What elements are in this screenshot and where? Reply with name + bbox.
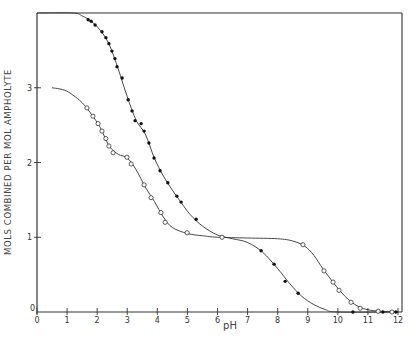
- open-circle-marker: [100, 129, 104, 133]
- open-circle-marker: [331, 280, 335, 284]
- filled-circle-marker: [179, 200, 182, 203]
- x-tick-label: 10: [333, 316, 343, 325]
- filled-circle-marker: [130, 109, 133, 112]
- filled-circle-marker: [158, 169, 161, 172]
- x-tick-label: 9: [305, 316, 310, 325]
- filled-circle-marker: [104, 36, 107, 39]
- filled-circle-marker: [259, 249, 262, 252]
- filled-circle-marker: [139, 122, 142, 125]
- open-circle-marker: [390, 310, 394, 314]
- y-tick-label: 1: [27, 233, 32, 242]
- filled-circle-marker: [115, 65, 118, 68]
- open-circle-marker: [142, 183, 146, 187]
- open-circle-marker: [163, 220, 167, 224]
- open-circle-marker: [301, 243, 305, 247]
- filled-circle-marker: [113, 57, 116, 60]
- filled-circle-marker: [107, 42, 110, 45]
- open-circle-marker: [96, 122, 100, 126]
- filled-series-curve: [37, 13, 398, 312]
- open-circle-marker: [185, 231, 189, 235]
- x-tick-label: 5: [185, 316, 190, 325]
- y-tick-label: 3: [27, 84, 32, 93]
- filled-circle-marker: [152, 156, 155, 159]
- x-tick-label: 6: [215, 316, 220, 325]
- filled-circle-marker: [86, 18, 89, 21]
- x-tick-label: 2: [95, 316, 100, 325]
- x-tick-label: 1: [65, 316, 70, 325]
- filled-circle-marker: [120, 76, 123, 79]
- filled-circle-marker: [351, 310, 354, 313]
- open-circle-marker: [159, 210, 163, 214]
- titration-chart: 01234567891011121230 MOLS COMBINED PER M…: [0, 0, 414, 344]
- filled-circle-marker: [394, 310, 397, 313]
- y-axis-title: MOLS COMBINED PER MOL AMPHOLYTE: [3, 69, 13, 255]
- open-circle-marker: [337, 288, 341, 292]
- filled-circle-marker: [296, 292, 299, 295]
- open-series-curve: [52, 88, 398, 312]
- filled-circle-marker: [133, 119, 136, 122]
- open-circle-marker: [129, 162, 133, 166]
- open-circle-marker: [220, 235, 224, 239]
- x-tick-label: 12: [393, 316, 403, 325]
- filled-circle-marker: [142, 129, 145, 132]
- filled-circle-marker: [175, 194, 178, 197]
- open-circle-marker: [107, 144, 111, 148]
- x-tick-label: 4: [155, 316, 160, 325]
- filled-circle-marker: [272, 262, 275, 265]
- x-tick-label: 7: [245, 316, 250, 325]
- filled-circle-marker: [93, 23, 96, 26]
- y-tick-label: 0: [30, 304, 35, 313]
- x-tick-label: 11: [363, 316, 373, 325]
- open-circle-marker: [322, 269, 326, 273]
- filled-circle-marker: [194, 218, 197, 221]
- data-markers: [85, 18, 398, 314]
- open-circle-marker: [104, 136, 108, 140]
- fit-curves: [37, 13, 398, 312]
- filled-circle-marker: [126, 98, 129, 101]
- open-circle-marker: [149, 196, 153, 200]
- filled-circle-marker: [110, 49, 113, 52]
- filled-circle-marker: [381, 310, 384, 313]
- open-circle-marker: [349, 300, 353, 304]
- open-circle-marker: [91, 114, 95, 118]
- filled-circle-marker: [100, 30, 103, 33]
- filled-circle-marker: [89, 20, 92, 23]
- x-tick-label: 8: [275, 316, 280, 325]
- open-circle-marker: [376, 309, 380, 313]
- open-circle-marker: [125, 155, 129, 159]
- x-axis-title: pH: [223, 320, 237, 331]
- axis-ticks: 01234567891011121230: [27, 84, 403, 325]
- open-circle-marker: [358, 306, 362, 310]
- x-tick-label: 0: [34, 316, 39, 325]
- y-tick-label: 2: [27, 159, 32, 168]
- filled-circle-marker: [147, 141, 150, 144]
- open-circle-marker: [111, 151, 115, 155]
- x-tick-label: 3: [125, 316, 130, 325]
- filled-circle-marker: [166, 181, 169, 184]
- filled-circle-marker: [283, 280, 286, 283]
- plot-frame: [37, 13, 402, 314]
- open-circle-marker: [85, 106, 89, 110]
